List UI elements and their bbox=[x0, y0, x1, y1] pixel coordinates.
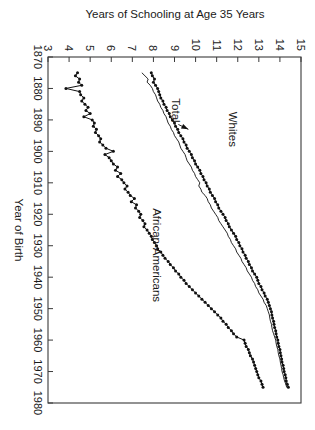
data-point bbox=[193, 159, 196, 162]
data-point bbox=[153, 78, 156, 81]
data-point bbox=[152, 81, 155, 84]
data-point bbox=[103, 153, 106, 156]
data-point bbox=[267, 301, 270, 304]
x-axis-title: Year of Birth bbox=[13, 199, 25, 262]
y-tick-label: 12 bbox=[232, 39, 244, 51]
data-point bbox=[74, 74, 77, 77]
data-point bbox=[205, 181, 208, 184]
x-tick-label: 1970 bbox=[32, 359, 44, 383]
x-tick-label: 1880 bbox=[32, 76, 44, 100]
data-point bbox=[116, 166, 119, 169]
data-point bbox=[166, 109, 169, 112]
data-point bbox=[259, 379, 262, 382]
data-point bbox=[234, 235, 237, 238]
data-point bbox=[244, 254, 247, 257]
y-tick-label: 14 bbox=[274, 39, 286, 51]
data-point bbox=[271, 317, 274, 320]
data-point bbox=[198, 169, 201, 172]
data-point bbox=[232, 232, 235, 235]
data-point bbox=[179, 134, 182, 137]
data-point bbox=[248, 351, 251, 354]
data-point bbox=[274, 329, 277, 332]
y-tick-label: 7 bbox=[126, 45, 138, 51]
data-point bbox=[248, 263, 251, 266]
x-tick-label: 1910 bbox=[32, 171, 44, 195]
data-point bbox=[165, 106, 168, 109]
data-point bbox=[251, 269, 254, 272]
data-point bbox=[254, 367, 257, 370]
data-point bbox=[270, 313, 273, 316]
y-axis-title: Years of Schooling at Age 35 Years bbox=[85, 8, 264, 20]
y-tick-label: 11 bbox=[211, 40, 223, 51]
data-point bbox=[146, 229, 149, 232]
x-tick-label: 1960 bbox=[32, 328, 44, 352]
data-point bbox=[196, 166, 199, 169]
data-point bbox=[92, 125, 95, 128]
data-point bbox=[89, 112, 92, 115]
data-point bbox=[162, 103, 165, 106]
data-point bbox=[99, 137, 102, 140]
data-point bbox=[249, 354, 252, 357]
data-point bbox=[158, 93, 161, 96]
data-point bbox=[188, 285, 191, 288]
data-point bbox=[82, 115, 85, 118]
data-point bbox=[148, 232, 151, 235]
data-point bbox=[93, 122, 96, 125]
data-point bbox=[213, 310, 216, 313]
data-point bbox=[210, 307, 213, 310]
data-point bbox=[137, 210, 140, 213]
data-point bbox=[203, 178, 206, 181]
data-point bbox=[275, 335, 278, 338]
data-point bbox=[95, 128, 98, 131]
data-point bbox=[259, 285, 262, 288]
data-point bbox=[252, 361, 255, 364]
data-point bbox=[161, 100, 164, 103]
data-point bbox=[141, 219, 144, 222]
data-point bbox=[257, 282, 260, 285]
data-point bbox=[255, 370, 258, 373]
data-point bbox=[142, 225, 145, 228]
data-point bbox=[79, 93, 82, 96]
data-point bbox=[230, 229, 233, 232]
data-point bbox=[135, 203, 138, 206]
data-point bbox=[269, 307, 272, 310]
data-point bbox=[157, 90, 160, 93]
data-point bbox=[87, 106, 90, 109]
data-point bbox=[219, 210, 222, 213]
data-point bbox=[245, 345, 248, 348]
data-point bbox=[181, 137, 184, 140]
data-point bbox=[116, 175, 119, 178]
data-point bbox=[134, 206, 137, 209]
data-point bbox=[76, 71, 79, 74]
data-point bbox=[282, 367, 285, 370]
data-point bbox=[255, 276, 258, 279]
data-point bbox=[247, 260, 250, 263]
series-label-whites: Whites bbox=[227, 112, 239, 147]
data-point bbox=[261, 383, 264, 386]
data-point bbox=[245, 257, 248, 260]
data-point bbox=[82, 96, 85, 99]
data-point bbox=[112, 162, 115, 165]
data-point bbox=[262, 386, 265, 389]
y-tick-label: 6 bbox=[105, 45, 117, 51]
data-point bbox=[80, 84, 83, 87]
data-point bbox=[279, 354, 282, 357]
data-point bbox=[98, 140, 101, 143]
data-point bbox=[238, 244, 241, 247]
data-point bbox=[120, 178, 123, 181]
data-point bbox=[188, 150, 191, 153]
x-tick-label: 1900 bbox=[32, 139, 44, 163]
data-point bbox=[151, 74, 154, 77]
data-point bbox=[156, 87, 159, 90]
data-point bbox=[244, 342, 247, 345]
data-point bbox=[122, 181, 125, 184]
data-point bbox=[235, 335, 238, 338]
data-point bbox=[130, 200, 133, 203]
data-point bbox=[243, 339, 246, 342]
data-point bbox=[194, 162, 197, 165]
data-point bbox=[207, 304, 210, 307]
data-point bbox=[78, 78, 81, 81]
data-point bbox=[127, 191, 130, 194]
data-point bbox=[78, 90, 81, 93]
data-point bbox=[186, 147, 189, 150]
